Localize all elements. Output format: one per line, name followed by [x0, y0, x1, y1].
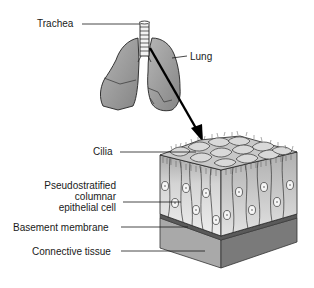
lungs-illustration: [100, 21, 180, 111]
trachea-illustration: [138, 21, 151, 62]
basement-membrane-label: Basement membrane: [13, 222, 109, 233]
cilia-label: Cilia: [93, 146, 112, 157]
trachea-label: Trachea: [37, 18, 73, 29]
pseudostratified-label-line1: Pseudostratified: [30, 180, 116, 191]
connective-tissue-label: Connective tissue: [32, 246, 111, 257]
epithelium-block: [160, 131, 297, 268]
pseudostratified-label-line2: columnar: [30, 191, 116, 202]
respiratory-epithelium-diagram: Trachea Lung Cilia Pseudostratified colu…: [0, 0, 314, 288]
pseudostratified-label-line3: epithelial cell: [30, 202, 116, 213]
lung-label: Lung: [190, 51, 212, 62]
diagram-illustration: [0, 0, 314, 288]
